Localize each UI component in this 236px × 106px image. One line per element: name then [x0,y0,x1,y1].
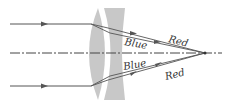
label-lower-red: Red [163,66,186,82]
label-upper-blue: Blue [123,36,149,51]
achromatic-doublet-diagram: Red Blue Blue Red [0,0,236,106]
arrow-icon [41,22,48,27]
arrow-icon [41,84,48,89]
label-upper-red: Red [167,33,190,49]
arrow-icon [130,71,137,76]
ray-bottom-blue [91,53,205,86]
diverging-lens [104,8,125,100]
focal-point [204,52,207,55]
